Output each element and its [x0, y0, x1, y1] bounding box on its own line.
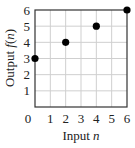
y-axis-title-text: Output: [2, 48, 17, 87]
y-tick-label: 5: [24, 19, 31, 34]
y-tick-label: 1: [24, 83, 31, 98]
y-axis-tick-labels: 123456: [24, 3, 31, 99]
data-point: [62, 39, 69, 46]
x-tick-label: 6: [124, 111, 131, 126]
y-axis-title: Output f(n): [2, 29, 17, 87]
data-point: [31, 55, 38, 62]
grid-lines: [35, 10, 127, 107]
x-tick-label: 0: [25, 111, 32, 126]
x-axis-title-var: n: [93, 128, 100, 143]
x-tick-label: 2: [62, 111, 69, 126]
x-tick-label: 1: [47, 111, 54, 126]
scatter-chart: 0123456 123456 Input n Output f(n): [0, 0, 135, 148]
x-tick-label: 3: [78, 111, 85, 126]
x-tick-label: 5: [108, 111, 115, 126]
x-axis-title-text: Input: [62, 128, 93, 143]
y-tick-label: 2: [24, 67, 31, 82]
y-tick-label: 4: [24, 35, 31, 50]
y-tick-label: 6: [24, 3, 31, 18]
x-tick-label: 4: [93, 111, 100, 126]
x-axis-tick-labels: 0123456: [25, 111, 131, 126]
y-axis-title-close: ): [2, 29, 17, 33]
data-point: [123, 6, 130, 13]
x-axis-title: Input n: [62, 128, 99, 143]
y-tick-label: 3: [24, 51, 31, 66]
data-point: [93, 23, 100, 30]
